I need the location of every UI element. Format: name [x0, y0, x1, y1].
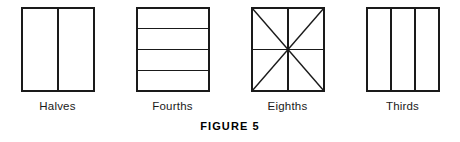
shape-cell-thirds: Thirds: [345, 0, 460, 113]
shape-row: Halves Fourths: [0, 0, 460, 118]
figure-5-diagram: Halves Fourths: [0, 0, 460, 142]
shape-label-eighths: Eighths: [268, 101, 308, 113]
shape-cell-halves: Halves: [0, 0, 115, 113]
shape-cell-fourths: Fourths: [115, 0, 230, 113]
eighths-square: [251, 7, 325, 92]
shape-label-fourths: Fourths: [152, 101, 192, 113]
shape-label-thirds: Thirds: [386, 101, 419, 113]
thirds-square: [366, 7, 440, 92]
shape-cell-eighths: Eighths: [230, 0, 345, 113]
fourths-square: [136, 7, 210, 92]
shape-label-halves: Halves: [39, 101, 75, 113]
figure-caption: FIGURE 5: [0, 120, 460, 132]
halves-square: [21, 7, 95, 92]
